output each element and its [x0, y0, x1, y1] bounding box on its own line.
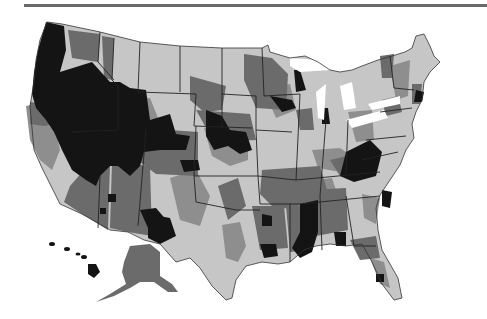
hawaii-inset	[49, 242, 100, 278]
us-choropleth-map	[0, 0, 487, 319]
alaska-inset	[96, 244, 178, 302]
